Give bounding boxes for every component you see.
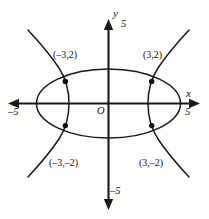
- x-axis-tick-label-positive-5: 5: [185, 107, 190, 118]
- intersection-dot-top-left: [63, 79, 68, 84]
- conic-graph-figure: y x 5 5 –5 –5 O (–3,2) (3,2) (–3,–2) (3,…: [0, 0, 209, 219]
- x-axis-right-arrow-icon: [189, 99, 200, 108]
- point-label-bottom-left: (–3,–2): [49, 158, 78, 168]
- y-axis-tick-label-negative-5: –5: [110, 186, 121, 197]
- intersection-dot-top-right: [149, 79, 154, 84]
- point-label-top-left: (–3,2): [53, 50, 77, 60]
- x-axis-label: x: [186, 88, 191, 99]
- point-label-bottom-right: (3,–2): [139, 158, 163, 168]
- point-label-top-right: (3,2): [143, 50, 162, 60]
- origin-label: O: [97, 106, 105, 117]
- intersection-dot-bottom-left: [63, 123, 68, 128]
- x-axis-tick-label-negative-5: –5: [8, 107, 19, 118]
- y-axis-top-arrow-icon: [104, 19, 113, 30]
- y-axis-tick-label-positive-5: 5: [121, 19, 126, 30]
- intersection-dot-bottom-right: [149, 123, 154, 128]
- y-axis-bottom-arrow-icon: [104, 199, 113, 210]
- y-axis-label: y: [113, 8, 118, 19]
